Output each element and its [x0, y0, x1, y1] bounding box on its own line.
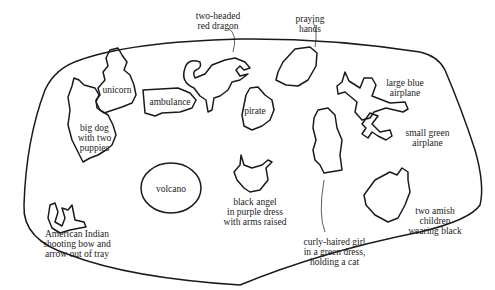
label-big-dog: big dog with two puppies: [72, 123, 117, 153]
girl-leader-line: [321, 180, 325, 232]
unicorn-shape: [96, 48, 136, 113]
label-curly-haired-girl: curly-haired girl in a green dress, hold…: [297, 237, 372, 267]
small-green-airplane-shape: [362, 113, 392, 140]
label-unicorn: unicorn: [97, 85, 137, 95]
label-small-green-airplane: small green airplane: [395, 128, 460, 148]
curly-haired-girl-shape: [313, 108, 342, 173]
label-large-blue-airplane: large blue airplane: [375, 78, 435, 98]
label-pirate: pirate: [240, 106, 270, 116]
label-volcano: volcano: [151, 184, 191, 194]
label-american-indian: American Indian shooting bow and arrow o…: [37, 229, 117, 259]
black-angel-shape: [234, 155, 272, 192]
label-two-headed-dragon: two-headed red dragon: [183, 11, 253, 31]
label-ambulance: ambulance: [145, 97, 195, 107]
label-praying-hands: praying hands: [280, 14, 340, 34]
praying-hands-shape: [276, 47, 317, 86]
label-black-angel: black angel in purple dress with arms ra…: [215, 197, 295, 227]
label-two-amish-children: two amish children wearing black: [400, 206, 470, 236]
